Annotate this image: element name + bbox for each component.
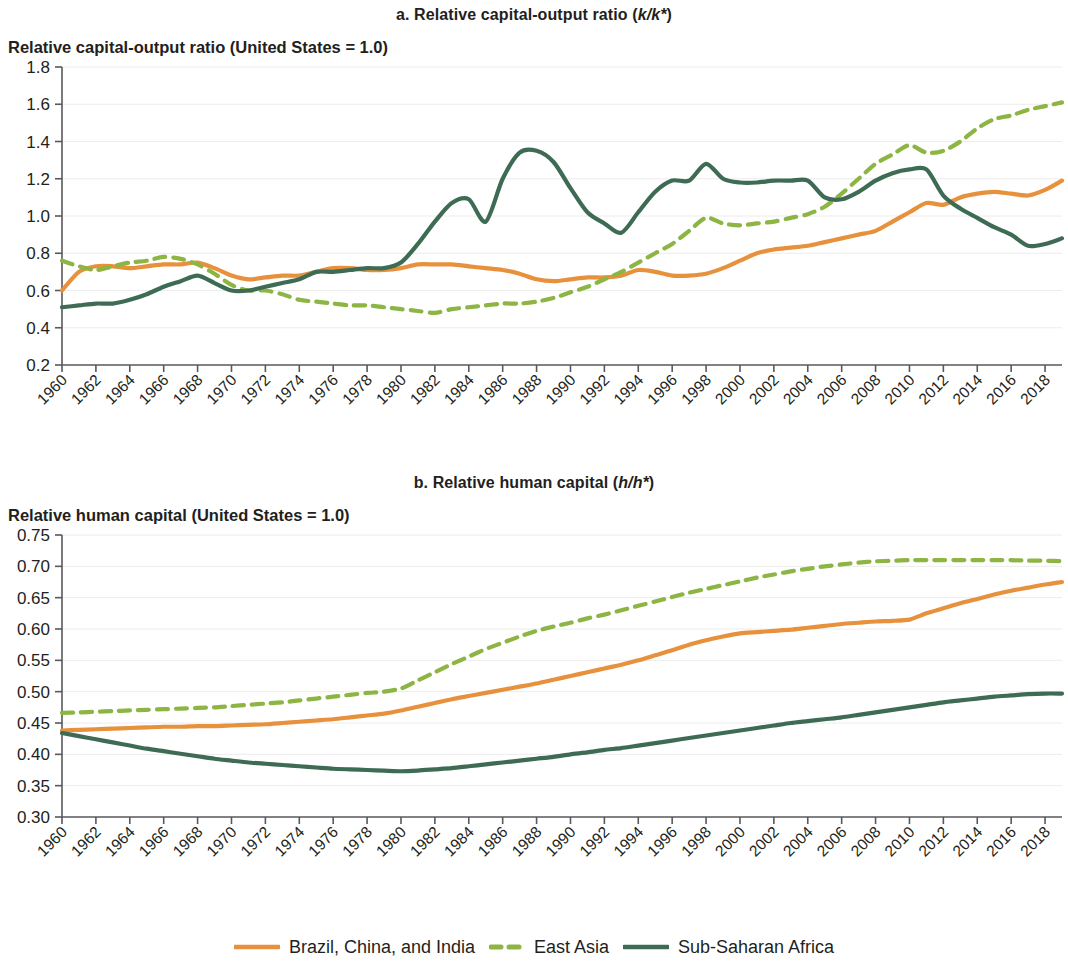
- y-axis-tick-label: 0.35: [17, 777, 50, 796]
- series-line: [62, 694, 1062, 772]
- panel-b: b. Relative human capital (h/h*) Relativ…: [0, 472, 1068, 932]
- x-axis-tick-label: 1986: [474, 823, 510, 859]
- y-axis-tick-label: 1.8: [26, 58, 50, 77]
- x-axis-tick-label: 1996: [644, 823, 680, 859]
- y-axis-tick-label: 1.6: [26, 95, 50, 114]
- panel-b-title-italic: h/h*: [618, 474, 649, 491]
- x-axis-tick-label: 1972: [237, 371, 273, 407]
- x-axis-tick-label: 2006: [813, 823, 849, 859]
- panel-b-title-prefix: b. Relative human capital (: [414, 474, 619, 491]
- figure-container: a. Relative capital-output ratio (k/k*) …: [0, 0, 1068, 964]
- x-axis-tick-label: 1978: [339, 823, 375, 859]
- x-axis-tick-label: 2000: [712, 823, 749, 860]
- x-axis-tick-label: 1974: [271, 823, 308, 860]
- legend-swatch-solid-orange: [234, 941, 280, 953]
- y-axis-tick-label: 0.50: [17, 683, 50, 702]
- x-axis-tick-label: 2016: [983, 371, 1019, 407]
- y-axis-tick-label: 0.60: [17, 620, 50, 639]
- x-axis-tick-label: 1990: [542, 371, 579, 408]
- x-axis-tick-label: 1964: [102, 823, 139, 860]
- x-axis-tick-label: 2008: [847, 823, 883, 859]
- figure-legend: Brazil, China, and India East Asia Sub-S…: [0, 932, 1068, 962]
- x-axis-tick-label: 1972: [237, 823, 273, 859]
- x-axis-tick-label: 1990: [542, 823, 579, 860]
- legend-label-east-asia: East Asia: [534, 937, 609, 958]
- panel-b-title: b. Relative human capital (h/h*): [0, 472, 1068, 492]
- panel-a-title-italic: k/k*: [638, 6, 667, 23]
- panel-a-axis-caption: Relative capital-output ratio (United St…: [8, 38, 1068, 57]
- legend-label-sub-saharan-africa: Sub-Saharan Africa: [678, 937, 834, 958]
- panel-a-title-suffix: ): [667, 6, 672, 23]
- y-axis-tick-label: 1.2: [26, 170, 50, 189]
- y-axis-tick-label: 0.6: [26, 282, 50, 301]
- legend-item-east-asia: East Asia: [489, 937, 609, 958]
- y-axis-tick-label: 0.75: [17, 526, 50, 545]
- y-axis-tick-label: 0.8: [26, 244, 50, 263]
- series-line: [62, 560, 1062, 713]
- x-axis-tick-label: 2008: [847, 371, 883, 407]
- y-axis-tick-label: 0.2: [26, 356, 50, 375]
- legend-item-sub-saharan-africa: Sub-Saharan Africa: [623, 937, 834, 958]
- y-axis-tick-label: 1.4: [26, 133, 50, 152]
- x-axis-tick-label: 1960: [34, 823, 71, 860]
- x-axis-tick-label: 2010: [881, 823, 918, 860]
- panel-a: a. Relative capital-output ratio (k/k*) …: [0, 0, 1068, 470]
- y-axis-tick-label: 0.65: [17, 589, 50, 608]
- panel-a-plot: 0.20.40.60.81.01.21.41.61.81960196219641…: [0, 57, 1068, 457]
- y-axis-tick-label: 0.4: [26, 319, 50, 338]
- series-line: [62, 150, 1062, 308]
- x-axis-tick-label: 1998: [678, 823, 714, 859]
- x-axis-tick-label: 1980: [373, 371, 410, 408]
- x-axis-tick-label: 2002: [746, 371, 782, 407]
- legend-swatch-solid-darkgreen: [623, 941, 669, 953]
- y-axis-tick-label: 0.55: [17, 651, 50, 670]
- x-axis-tick-label: 2004: [780, 371, 817, 408]
- x-axis-tick-label: 1968: [169, 823, 205, 859]
- y-axis-tick-label: 0.45: [17, 714, 50, 733]
- x-axis-tick-label: 1980: [373, 823, 410, 860]
- x-axis-tick-label: 1968: [169, 371, 205, 407]
- x-axis-tick-label: 1994: [610, 371, 647, 408]
- panel-a-title: a. Relative capital-output ratio (k/k*): [0, 0, 1068, 24]
- y-axis-tick-label: 0.70: [17, 557, 50, 576]
- x-axis-tick-label: 2018: [1017, 823, 1053, 859]
- x-axis-tick-label: 1966: [135, 823, 171, 859]
- y-axis-tick-label: 1.0: [26, 207, 50, 226]
- x-axis-tick-label: 1960: [34, 371, 71, 408]
- x-axis-tick-label: 1994: [610, 823, 647, 860]
- x-axis-tick-label: 2014: [949, 371, 986, 408]
- y-axis-tick-label: 0.30: [17, 808, 50, 827]
- x-axis-tick-label: 2016: [983, 823, 1019, 859]
- x-axis-tick-label: 1998: [678, 371, 714, 407]
- legend-label-brazil-china-india: Brazil, China, and India: [289, 937, 475, 958]
- panel-b-title-suffix: ): [649, 474, 654, 491]
- x-axis-tick-label: 1970: [203, 371, 240, 408]
- x-axis-tick-label: 1988: [508, 371, 544, 407]
- x-axis-tick-label: 2014: [949, 823, 986, 860]
- x-axis-tick-label: 2002: [746, 823, 782, 859]
- x-axis-tick-label: 1992: [576, 823, 612, 859]
- x-axis-tick-label: 1986: [474, 371, 510, 407]
- x-axis-tick-label: 1982: [407, 823, 443, 859]
- x-axis-tick-label: 1976: [305, 823, 341, 859]
- x-axis-tick-label: 2018: [1017, 371, 1053, 407]
- panel-b-plot: 0.300.350.400.450.500.550.600.650.700.75…: [0, 525, 1068, 915]
- legend-item-brazil-china-india: Brazil, China, and India: [234, 937, 475, 958]
- x-axis-tick-label: 2010: [881, 371, 918, 408]
- x-axis-tick-label: 1966: [135, 371, 171, 407]
- x-axis-tick-label: 1978: [339, 371, 375, 407]
- x-axis-tick-label: 2004: [780, 823, 817, 860]
- legend-swatch-dashed-green: [489, 941, 525, 953]
- x-axis-tick-label: 1970: [203, 823, 240, 860]
- x-axis-tick-label: 1964: [102, 371, 139, 408]
- x-axis-tick-label: 1984: [441, 371, 478, 408]
- x-axis-tick-label: 1982: [407, 371, 443, 407]
- x-axis-tick-label: 1962: [68, 371, 104, 407]
- x-axis-tick-label: 2012: [915, 823, 951, 859]
- x-axis-tick-label: 1976: [305, 371, 341, 407]
- y-axis-tick-label: 0.40: [17, 745, 50, 764]
- x-axis-tick-label: 1992: [576, 371, 612, 407]
- x-axis-tick-label: 2012: [915, 371, 951, 407]
- x-axis-tick-label: 1984: [441, 823, 478, 860]
- x-axis-tick-label: 1962: [68, 823, 104, 859]
